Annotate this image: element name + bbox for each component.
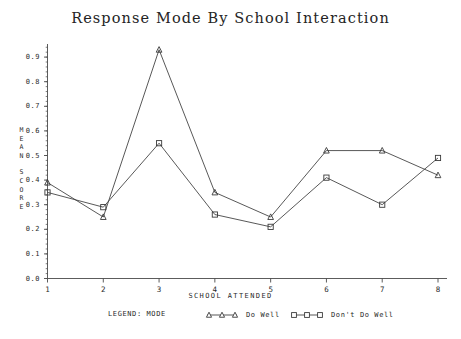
legend-entry: Don't Do Well [290, 310, 394, 320]
axis-lines [48, 44, 448, 279]
data-series-group [45, 47, 441, 230]
series-line [48, 50, 439, 217]
legend-title: LEGEND: MODE [108, 310, 166, 318]
series-do-well [45, 47, 441, 220]
legend-entry-label: Don't Do Well [331, 311, 394, 319]
chart-legend: LEGEND: MODE Do WellDon't Do Well [0, 309, 461, 323]
plot-area [0, 0, 461, 339]
x-axis-ticks [48, 279, 439, 283]
y-axis-ticks [44, 47, 48, 278]
series-line [48, 143, 439, 227]
square-marker [290, 310, 324, 320]
legend-entry: Do Well [205, 310, 280, 320]
chart-page: Response Mode By School Interaction MEAN… [0, 0, 461, 339]
legend-entry-label: Do Well [246, 311, 280, 319]
triangle-up-marker [205, 310, 239, 320]
x-axis-title: SCHOOL ATTENDED [0, 292, 461, 300]
